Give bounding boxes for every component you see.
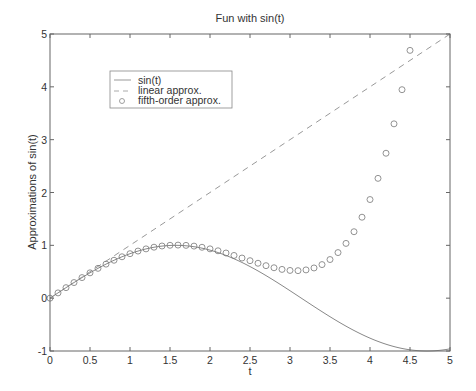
x-tick-label: 1.5 [163,354,178,366]
data-point-marker [391,121,397,127]
chart-title: Fun with sin(t) [215,12,284,24]
legend-label-fifth-order: fifth-order approx. [138,94,221,106]
data-point-marker [407,47,413,53]
data-point-marker [287,267,293,273]
y-axis-label: Approximations of sin(t) [26,134,38,250]
x-tick-label: 0.5 [83,354,98,366]
x-axis-label: t [248,365,251,377]
data-point-marker [255,260,261,266]
series-sin-line [50,245,450,351]
x-tick-label: 0 [47,354,53,366]
data-point-marker [343,240,349,246]
data-point-marker [231,252,237,258]
figure: Fun with sin(t) 00.511.522.533.544.55 -1… [0,0,476,391]
data-point-marker [247,258,253,264]
data-point-marker [359,214,365,220]
data-point-marker [375,175,381,181]
data-point-marker [319,262,325,268]
x-tick-label: 1 [127,354,133,366]
data-point-marker [295,268,301,274]
y-tick-label: 3 [41,134,47,146]
data-point-marker [351,229,357,235]
x-tick-label: 3.5 [323,354,338,366]
chart-canvas: Fun with sin(t) 00.511.522.533.544.55 -1… [0,0,476,391]
x-tick-label: 4.5 [403,354,418,366]
data-point-marker [335,250,341,256]
legend: sin(t) linear approx. fifth-order approx… [110,71,232,108]
y-tick-label: -1 [38,345,47,357]
data-point-marker [383,150,389,156]
data-point-marker [207,246,213,252]
y-axis: -1012345 [38,28,450,357]
data-point-marker [311,265,317,271]
data-point-marker [279,266,285,272]
data-point-marker [239,255,245,261]
x-tick-label: 5 [447,354,453,366]
data-point-marker [303,267,309,273]
y-tick-label: 1 [41,239,47,251]
data-point-marker [327,257,333,263]
x-tick-label: 4 [367,354,373,366]
data-point-marker [263,263,269,269]
data-point-marker [367,197,373,203]
y-tick-label: 2 [41,187,47,199]
series-layer [47,34,450,351]
y-tick-label: 4 [41,81,47,93]
y-tick-label: 5 [41,28,47,40]
y-tick-label: 0 [41,292,47,304]
data-point-marker [271,265,277,271]
data-point-marker [399,87,405,93]
x-tick-label: 3 [287,354,293,366]
x-axis: 00.511.522.533.544.55 [47,34,453,366]
x-tick-label: 2 [207,354,213,366]
